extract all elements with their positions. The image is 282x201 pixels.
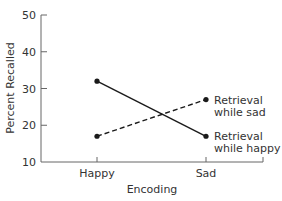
y-tick-label: 10: [22, 156, 36, 169]
series-group: [94, 79, 208, 139]
y-tick-label: 50: [22, 9, 36, 22]
series-label: while happy: [214, 142, 281, 155]
series-label: while sad: [214, 106, 266, 119]
y-axis: 1020304050: [22, 9, 47, 169]
y-tick-label: 30: [22, 83, 36, 96]
series-line: [97, 81, 206, 136]
data-point-marker: [203, 134, 208, 139]
x-axis: HappySad: [41, 157, 263, 180]
y-tick-label: 20: [22, 119, 36, 132]
x-axis-title: Encoding: [127, 183, 178, 196]
y-tick-label: 40: [22, 46, 36, 59]
x-tick-label: Happy: [79, 167, 115, 180]
series-line: [97, 100, 206, 137]
data-point-marker: [203, 97, 208, 102]
x-tick-label: Sad: [196, 167, 217, 180]
line-chart: 1020304050 HappySad Percent Recalled Enc…: [0, 0, 282, 201]
series-labels: Retrievalwhile happyRetrievalwhile sad: [214, 94, 281, 156]
data-point-marker: [94, 79, 99, 84]
y-axis-title: Percent Recalled: [4, 42, 17, 133]
data-point-marker: [94, 134, 99, 139]
